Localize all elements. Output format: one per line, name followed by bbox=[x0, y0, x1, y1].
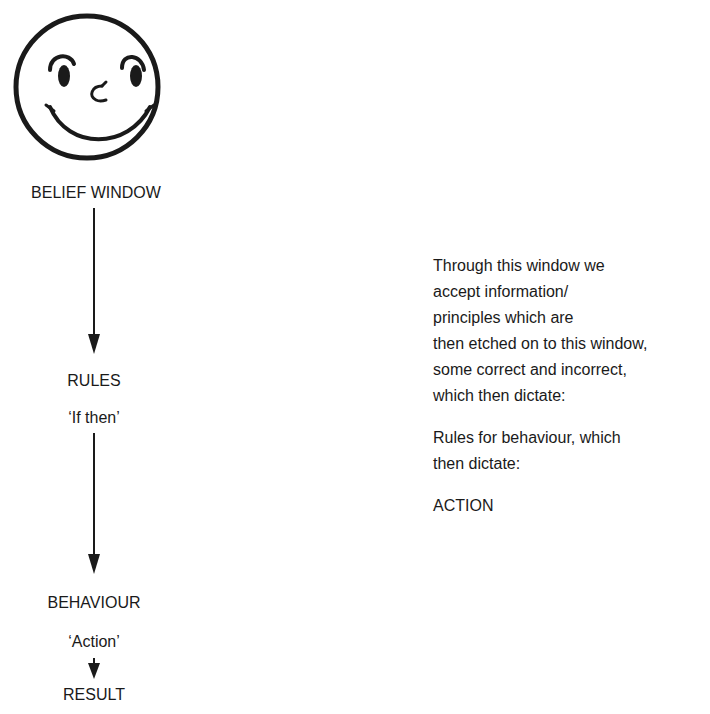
behaviour-sublabel: ‘Action’ bbox=[44, 633, 144, 651]
arrow-belief-to-rules-line bbox=[93, 208, 95, 336]
text-line: principles which are bbox=[433, 309, 574, 326]
text-line: then etched on to this window, bbox=[433, 335, 647, 352]
smiley-face-icon bbox=[10, 10, 164, 164]
description-text: Through this window we accept informatio… bbox=[433, 253, 703, 535]
arrow-down-icon bbox=[88, 334, 100, 354]
description-paragraph-3: ACTION bbox=[433, 493, 703, 519]
belief-window-label: BELIEF WINDOW bbox=[8, 184, 184, 202]
result-label: RESULT bbox=[44, 686, 144, 704]
arrow-down-icon bbox=[88, 663, 100, 679]
text-line: Rules for behaviour, which bbox=[433, 429, 621, 446]
text-line: then dictate: bbox=[433, 455, 520, 472]
rules-label: RULES bbox=[44, 372, 144, 390]
text-line: which then dictate: bbox=[433, 387, 566, 404]
text-line: accept information/ bbox=[433, 283, 568, 300]
text-line: Through this window we bbox=[433, 257, 605, 274]
arrow-rules-to-behaviour-line bbox=[93, 433, 95, 557]
rules-sublabel: ‘If then’ bbox=[44, 409, 144, 427]
text-line: some correct and incorrect, bbox=[433, 361, 627, 378]
description-paragraph-1: Through this window we accept informatio… bbox=[433, 253, 703, 409]
behaviour-label: BEHAVIOUR bbox=[24, 594, 164, 612]
arrow-down-icon bbox=[88, 554, 100, 574]
description-paragraph-2: Rules for behaviour, which then dictate: bbox=[433, 425, 703, 477]
